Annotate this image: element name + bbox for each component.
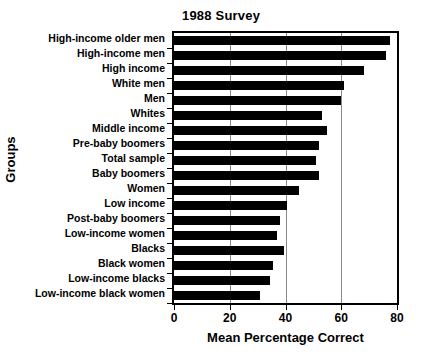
category-label: High-income men	[77, 48, 165, 59]
category-label: High income	[102, 63, 165, 74]
y-axis-category-labels: High-income older menHigh-income menHigh…	[0, 31, 169, 305]
y-tick	[167, 78, 172, 79]
category-label: Low-income blacks	[68, 273, 165, 284]
x-tick-label: 20	[215, 311, 245, 325]
category-label: Women	[127, 183, 165, 194]
y-tick	[167, 123, 172, 124]
x-axis-title: Mean Percentage Correct	[172, 330, 399, 345]
bar	[174, 36, 390, 45]
category-label: Low-income women	[65, 228, 165, 239]
y-tick	[167, 288, 172, 289]
x-tick-label: 60	[326, 311, 356, 325]
bar	[174, 111, 322, 120]
bar	[174, 216, 280, 225]
bar	[174, 201, 287, 210]
category-label: Whites	[131, 108, 165, 119]
category-label: Men	[144, 93, 165, 104]
category-label: Black women	[98, 258, 165, 269]
category-label: Low income	[104, 198, 165, 209]
y-tick	[167, 168, 172, 169]
bar	[174, 66, 364, 75]
x-tick	[397, 305, 398, 310]
plot-area	[172, 31, 399, 305]
y-tick	[167, 153, 172, 154]
y-tick	[167, 93, 172, 94]
x-tick-label: 0	[159, 311, 189, 325]
bar	[174, 186, 299, 195]
y-tick	[167, 108, 172, 109]
y-tick	[167, 258, 172, 259]
category-label: Low-income black women	[35, 288, 165, 299]
y-tick	[167, 273, 172, 274]
x-tick	[286, 305, 287, 310]
y-tick	[167, 63, 172, 64]
x-tick-label: 80	[382, 311, 412, 325]
x-tick-label: 40	[271, 311, 301, 325]
y-tick	[167, 243, 172, 244]
y-tick	[167, 303, 172, 304]
bar	[174, 156, 316, 165]
chart-title: 1988 Survey	[182, 8, 260, 23]
bar	[174, 51, 386, 60]
bar	[174, 96, 341, 105]
category-label: Baby boomers	[92, 168, 165, 179]
bar	[174, 81, 344, 90]
y-tick	[167, 138, 172, 139]
category-label: Post-baby boomers	[67, 213, 165, 224]
y-tick	[167, 183, 172, 184]
bar	[174, 126, 327, 135]
category-label: Blacks	[131, 243, 165, 254]
category-label: Total sample	[102, 153, 165, 164]
bar	[174, 141, 319, 150]
bar	[174, 276, 270, 285]
bar-chart: 1988 Survey Groups High-income older men…	[0, 0, 435, 360]
bar	[174, 291, 260, 300]
y-tick	[167, 198, 172, 199]
y-tick	[167, 213, 172, 214]
x-tick	[174, 305, 175, 310]
bar	[174, 171, 319, 180]
bar	[174, 261, 273, 270]
bar	[174, 231, 277, 240]
category-label: Middle income	[92, 123, 165, 134]
x-tick	[230, 305, 231, 310]
category-label: Pre-baby boomers	[73, 138, 165, 149]
category-label: White men	[112, 78, 165, 89]
y-tick	[167, 48, 172, 49]
category-label: High-income older men	[48, 33, 165, 44]
y-tick	[167, 228, 172, 229]
bar	[174, 246, 284, 255]
x-tick	[341, 305, 342, 310]
